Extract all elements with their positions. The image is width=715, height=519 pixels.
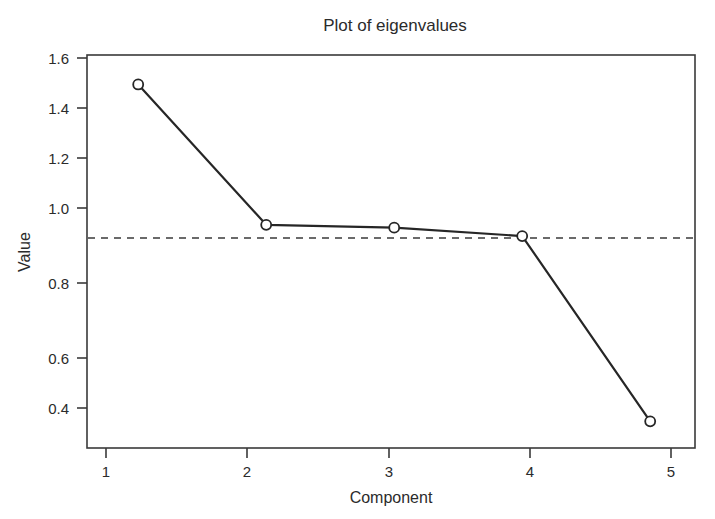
x-axis-title: Component — [350, 489, 433, 506]
data-point-component-5 — [645, 416, 655, 426]
y-axis-ticks — [77, 58, 87, 408]
eigenvalue-series-markers — [133, 79, 655, 426]
eigenvalue-series-line — [138, 84, 650, 421]
x-tick-label-1: 1 — [102, 463, 110, 480]
y-axis-title: Value — [16, 232, 33, 272]
y-tick-label-0.8: 0.8 — [48, 275, 69, 292]
plot-frame — [87, 55, 695, 448]
y-tick-label-1.0: 1.0 — [48, 200, 69, 217]
scree-plot-figure: Plot of eigenvalues 1.6 1.4 1.2 1.0 0.8 … — [0, 0, 715, 519]
x-tick-label-2: 2 — [243, 463, 251, 480]
y-tick-label-1.2: 1.2 — [48, 150, 69, 167]
plot-canvas: Plot of eigenvalues 1.6 1.4 1.2 1.0 0.8 … — [0, 0, 715, 519]
x-tick-label-5: 5 — [667, 463, 675, 480]
data-point-component-1 — [133, 79, 143, 89]
y-tick-label-1.4: 1.4 — [48, 100, 69, 117]
x-tick-label-3: 3 — [385, 463, 393, 480]
y-tick-label-0.4: 0.4 — [48, 400, 69, 417]
data-point-component-2 — [261, 220, 271, 230]
chart-title: Plot of eigenvalues — [323, 16, 467, 35]
y-axis-tick-labels: 1.6 1.4 1.2 1.0 0.8 0.6 0.4 — [48, 50, 69, 417]
y-tick-label-0.6: 0.6 — [48, 350, 69, 367]
data-point-component-4 — [517, 231, 527, 241]
data-point-component-3 — [389, 223, 399, 233]
x-tick-label-4: 4 — [526, 463, 534, 480]
y-tick-label-1.6: 1.6 — [48, 50, 69, 67]
x-axis-tick-labels: 1 2 3 4 5 — [102, 463, 675, 480]
x-axis-ticks — [106, 448, 671, 458]
